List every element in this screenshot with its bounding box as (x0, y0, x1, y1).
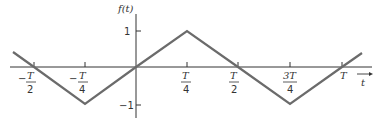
svg-text:4: 4 (79, 84, 85, 95)
svg-text:T: T (27, 70, 35, 81)
svg-text:4: 4 (287, 84, 293, 95)
triangle-wave-chart: f(t) 1 −1 − T 2 − T 4 T 4 T 2 3T 4 T t (0, 0, 377, 124)
x-axis-arrow (357, 72, 373, 76)
svg-text:4: 4 (183, 84, 189, 95)
x-ticks (34, 62, 342, 67)
svg-text:T: T (230, 70, 238, 81)
svg-text:−: − (18, 73, 26, 84)
svg-text:2: 2 (231, 84, 237, 95)
x-tick-label-half: T 2 (229, 70, 239, 95)
y-tick-label-1: 1 (124, 26, 130, 37)
x-tick-label-quarter: T 4 (181, 70, 191, 95)
svg-text:−: − (69, 73, 77, 84)
x-axis-label: t (361, 77, 366, 88)
y-tick-label-neg1: −1 (119, 100, 134, 111)
x-tick-label-period: T (340, 70, 348, 81)
x-tick-label-neg-half: − T 2 (18, 70, 36, 95)
svg-text:3T: 3T (283, 70, 297, 81)
svg-text:T: T (182, 70, 190, 81)
svg-text:T: T (340, 70, 348, 81)
x-tick-label-neg-quarter: − T 4 (69, 70, 88, 95)
svg-text:T: T (79, 70, 87, 81)
x-tick-label-three-quarter: 3T 4 (283, 70, 297, 95)
y-axis-label: f(t) (117, 3, 134, 14)
svg-text:2: 2 (27, 84, 33, 95)
